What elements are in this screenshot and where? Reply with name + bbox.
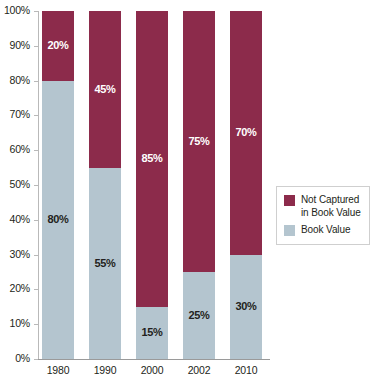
x-axis-label-1990: 1990 [81,364,129,376]
x-axis-line [38,359,270,360]
bar-segment-value-label: 70% [235,127,256,138]
bar-segment-book-value[interactable]: 15% [136,307,168,359]
bar-segment-value-label: 55% [94,258,115,269]
y-axis-tick-label: 70% [10,108,30,120]
y-axis-tick-label: 40% [10,213,30,225]
legend-item[interactable]: Not Captured in Book Value [284,194,363,219]
bar-segment-value-label: 15% [141,327,162,338]
bar-group: 75%25% [183,11,215,359]
bar-segment-value-label: 45% [94,84,115,95]
bar-group: 85%15% [136,11,168,359]
y-axis-tick-label: 100% [4,4,30,16]
bar-segment-not-captured-in-book-value[interactable]: 45% [89,11,121,168]
y-axis-tick-label: 30% [10,248,30,260]
bar-segment-value-label: 25% [188,310,209,321]
x-axis-label-2000: 2000 [128,364,176,376]
bar-segment-book-value[interactable]: 80% [42,81,74,359]
bar-segment-not-captured-in-book-value[interactable]: 70% [230,11,262,255]
legend-swatch-not-captured-in-book-value [284,195,295,206]
bar-segment-not-captured-in-book-value[interactable]: 75% [183,11,215,272]
bar-segment-value-label: 85% [141,153,162,164]
y-axis-tick-label: 50% [10,178,30,190]
legend-label-book-value: Book Value [301,224,350,237]
stacked-bar-chart: 0%10%20%30%40%50%60%70%80%90%100% 20%80%… [0,0,374,385]
bar-segment-value-label: 75% [188,136,209,147]
bar-group: 20%80% [42,11,74,359]
bar-segment-value-label: 30% [235,301,256,312]
bar-segment-book-value[interactable]: 25% [183,272,215,359]
legend-item[interactable]: Book Value [284,224,363,237]
bar-segment-value-label: 20% [47,40,68,51]
bar-group: 70%30% [230,11,262,359]
plot-area: 20%80%45%55%85%15%75%25%70%30% [38,11,270,359]
bar-group: 45%55% [89,11,121,359]
y-axis-tick-label: 10% [10,317,30,329]
bar-segment-not-captured-in-book-value[interactable]: 85% [136,11,168,307]
chart-legend: Not Captured in Book Value Book Value [276,186,370,245]
y-axis-tick-label: 90% [10,39,30,51]
y-axis-tick-label: 80% [10,74,30,86]
legend-swatch-book-value [284,225,295,236]
y-axis-tick-mark [34,359,38,360]
x-axis-label-2010: 2010 [222,364,270,376]
y-axis-tick-label: 20% [10,282,30,294]
legend-label-not-captured-in-book-value: Not Captured in Book Value [301,194,363,219]
bar-segment-not-captured-in-book-value[interactable]: 20% [42,11,74,81]
bar-segment-book-value[interactable]: 30% [230,255,262,359]
bar-segment-book-value[interactable]: 55% [89,168,121,359]
y-axis-tick-label: 60% [10,143,30,155]
x-axis-label-1980: 1980 [34,364,82,376]
x-axis-label-2002: 2002 [175,364,223,376]
y-axis-tick-label: 0% [15,352,30,364]
bar-segment-value-label: 80% [47,214,68,225]
